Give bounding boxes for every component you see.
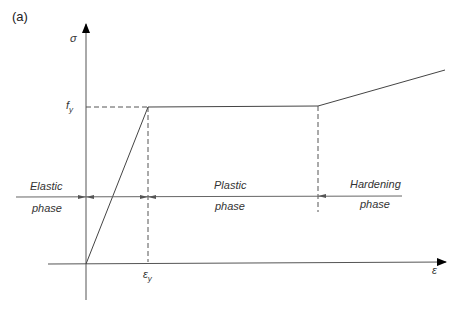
stress-strain-curve <box>86 70 445 264</box>
ey-label: εy <box>143 268 153 283</box>
x-axis-label: ε <box>432 264 437 276</box>
phase-divider-line <box>16 196 402 197</box>
panel-label: (a) <box>12 9 28 24</box>
elastic-label: Elastic <box>30 180 63 192</box>
plastic-phase-label: phase <box>214 200 245 212</box>
fy-label: fy <box>66 99 74 114</box>
plastic-label: Plastic <box>214 179 247 191</box>
stress-strain-diagram: (a) σ ε fy εy Elastic phase Plastic phas… <box>0 0 461 313</box>
y-axis-label: σ <box>70 32 77 44</box>
x-axis <box>48 262 446 264</box>
hardening-phase-label: phase <box>359 198 390 210</box>
hardening-label: Hardening <box>350 178 402 190</box>
elastic-phase-label: phase <box>31 202 62 214</box>
